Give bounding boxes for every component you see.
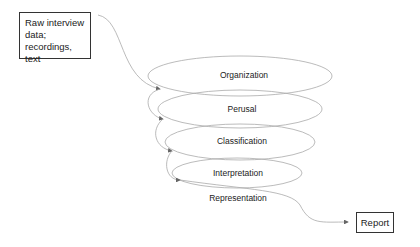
stage-organization: Organization [184, 70, 304, 80]
input-line-2: data; [25, 29, 85, 41]
input-box: Raw interview data; recordings, text [19, 12, 91, 59]
stage-interpretation: Interpretation [178, 168, 298, 178]
report-box: Report [356, 212, 394, 233]
stage-classification: Classification [182, 136, 302, 146]
input-line-3: recordings, text [25, 41, 85, 65]
report-label: Report [361, 217, 390, 228]
input-line-1: Raw interview [25, 17, 85, 29]
stage-representation: Representation [178, 193, 298, 203]
stage-perusal: Perusal [182, 104, 302, 114]
